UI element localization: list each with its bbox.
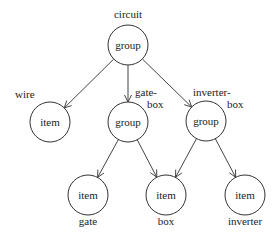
edge-gate-box-to-box <box>137 140 157 178</box>
node-name-label: inverter <box>228 215 263 227</box>
edge-gate-box-to-gate <box>98 140 119 178</box>
node-inverter: item <box>225 175 265 215</box>
node-name-label: box <box>158 215 175 227</box>
node-circuit: group <box>108 25 148 65</box>
node-gate: item <box>68 175 108 215</box>
node-wire: item <box>30 102 70 142</box>
node-inverter-box: group <box>186 101 226 141</box>
node-type-text: item <box>78 189 98 201</box>
node-gate-box: group <box>108 102 148 142</box>
node-type-text: group <box>115 116 141 128</box>
node-name-label: circuit <box>114 8 142 20</box>
edge-inverter-box-to-inverter <box>215 139 235 178</box>
node-type-text: item <box>40 116 60 128</box>
node-type-text: item <box>235 189 255 201</box>
nodes-layer: groupitemgroupgroupitemitemitem <box>30 25 265 215</box>
hierarchy-diagram: groupitemgroupgroupitemitemitem circuitw… <box>0 0 276 238</box>
node-type-text: group <box>115 39 141 51</box>
edge-circuit-to-wire <box>64 59 114 108</box>
edge-inverter-box-to-box <box>176 139 197 178</box>
node-type-text: group <box>193 115 219 127</box>
node-name-label: wire <box>15 88 35 100</box>
node-name-label: gate <box>79 215 97 227</box>
edge-circuit-to-gate-box <box>125 65 132 102</box>
node-box: item <box>146 175 186 215</box>
node-type-text: item <box>156 189 176 201</box>
